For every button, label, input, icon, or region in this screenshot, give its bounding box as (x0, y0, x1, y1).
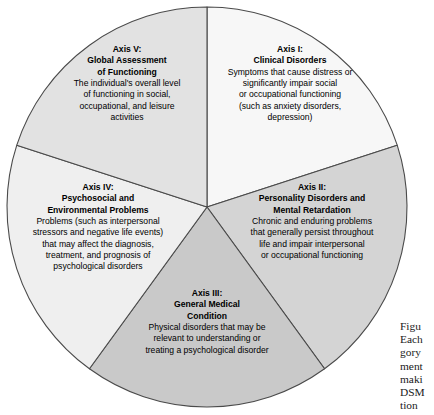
segment-body-line: of functioning in social, (84, 89, 171, 99)
segment-body-line: treating a psychological disorder (145, 345, 268, 355)
segment-body-line: stressors and negative life events) (33, 227, 164, 237)
caption-line: Figu (400, 320, 434, 333)
caption-line: Each (400, 333, 434, 346)
segment-title-line: General Medical (174, 299, 240, 309)
segment-title-line: Mental Retardation (273, 205, 350, 215)
segment-label-axis-5: Axis V:Global Assessmentof FunctioningTh… (74, 44, 181, 122)
segment-title-line: Personality Disorders and (259, 193, 366, 203)
segment-body-line: activities (111, 112, 144, 122)
segment-body-line: occupational, and leisure (79, 101, 174, 111)
segment-title-line: of Functioning (97, 67, 157, 77)
segment-body-line: relevant to understanding or (153, 333, 260, 343)
segment-title-line: Axis III: (192, 288, 223, 298)
multiaxial-wheel-diagram: Axis I:Clinical DisordersSymptoms that c… (0, 0, 434, 415)
segment-title-line: Clinical Disorders (253, 55, 326, 65)
segment-body-line: that may affect the diagnosis, (42, 239, 154, 249)
segment-label-axis-2: Axis II:Personality Disorders andMental … (251, 182, 374, 260)
caption-line: DSM (400, 386, 434, 399)
segment-body-line: The individual's overall level (74, 78, 181, 88)
segment-body-line: or occupational functioning (261, 250, 363, 260)
figure-caption: FiguEachgorymentmakiDSMtion (400, 320, 434, 415)
segment-body-line: depression) (268, 112, 313, 122)
caption-line: gory (400, 346, 434, 359)
segment-body-line: that generally persist throughout (251, 227, 374, 237)
segment-title-line: Axis II: (298, 182, 326, 192)
segment-body-line: (such as anxiety disorders, (239, 101, 341, 111)
caption-line: maki (400, 373, 434, 386)
segment-body-line: treatment, and prognosis of (46, 250, 151, 260)
segment-title-line: Axis I: (277, 44, 303, 54)
caption-line: ment (400, 360, 434, 373)
segment-title-line: Psychosocial and (62, 193, 135, 203)
segment-title-line: Global Assessment (87, 55, 167, 65)
figure-root: Axis I:Clinical DisordersSymptoms that c… (0, 0, 434, 415)
caption-line: tion (400, 399, 434, 412)
segment-title-line: Axis V: (113, 44, 142, 54)
segment-body-line: life and impair interpersonal (259, 239, 365, 249)
segment-body-line: psychological disorders (53, 261, 142, 271)
segment-body-line: Chronic and enduring problems (252, 216, 372, 226)
segment-body-line: or occupational functioning (239, 89, 341, 99)
segment-title-line: Axis IV: (82, 182, 113, 192)
segment-body-line: Physical disorders that may be (148, 322, 265, 332)
segment-body-line: Problems (such as interpersonal (36, 216, 159, 226)
segment-body-line: Symptoms that cause distress or (228, 67, 353, 77)
segment-title-line: Condition (187, 311, 227, 321)
segment-title-line: Environmental Problems (47, 205, 148, 215)
segment-body-line: significantly impair social (243, 78, 338, 88)
